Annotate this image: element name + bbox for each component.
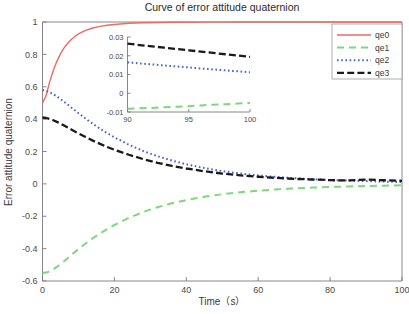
y-tick-label: -0.6	[22, 276, 38, 286]
y-tick-label: 0.2	[25, 147, 38, 157]
inset-y-tick-label: 0.03	[109, 33, 124, 42]
legend-label-qe3[interactable]: qe3	[375, 68, 389, 78]
chart-canvas: 020406080100-0.6-0.4-0.200.20.40.60.81 C…	[0, 0, 409, 314]
inset-x-tick-label: 90	[123, 115, 131, 124]
series-line-qe1	[43, 185, 403, 273]
inset-x-tick-label: 95	[185, 115, 193, 124]
x-axis-label: Time（s）	[199, 296, 246, 307]
legend-box	[332, 24, 402, 79]
y-tick-label: 0	[32, 179, 37, 189]
y-tick-label: 1	[32, 17, 37, 27]
x-tick-label: 40	[181, 285, 191, 295]
x-tick-label: 0	[40, 285, 45, 295]
x-tick-label: 20	[109, 285, 119, 295]
series-line-qe3	[43, 118, 403, 181]
y-tick-label: 0.4	[25, 114, 38, 124]
inset-y-tick-label: -0.01	[106, 108, 123, 117]
x-tick-label: 80	[325, 285, 335, 295]
legend-label-qe1[interactable]: qe1	[375, 43, 389, 53]
y-tick-label: 0.6	[25, 82, 38, 92]
legend-label-qe2[interactable]: qe2	[375, 55, 389, 65]
legend-label-qe0[interactable]: qe0	[375, 30, 389, 40]
y-axis-label: Error attitude quaternion	[3, 98, 14, 206]
y-tick-label: -0.2	[22, 211, 38, 221]
legend[interactable]: qe0qe1qe2qe3	[332, 24, 402, 79]
inset-y-tick-label: 0	[119, 89, 123, 98]
inset-x-tick-label: 100	[244, 115, 257, 124]
y-tick-label: -0.4	[22, 244, 38, 254]
inset-axes: 9095100-0.0100.010.020.03	[106, 30, 256, 124]
inset-y-tick-label: 0.02	[109, 52, 124, 61]
inset-y-tick-label: 0.01	[109, 70, 124, 79]
x-tick-label: 60	[253, 285, 263, 295]
chart-figure: 020406080100-0.6-0.4-0.200.20.40.60.81 C…	[0, 0, 409, 314]
chart-title: Curve of error attitude quaternion	[145, 1, 300, 13]
x-tick-label: 100	[394, 285, 409, 295]
y-tick-label: 0.8	[25, 50, 38, 60]
